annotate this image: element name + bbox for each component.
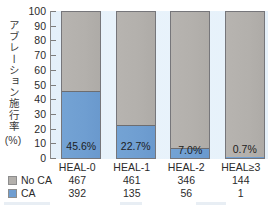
x-axis-tick-labels: HEAL-0HEAL-1HEAL-2HEAL≥3 xyxy=(50,161,268,175)
y-tick-label: 100 xyxy=(28,6,46,17)
y-tick-mark xyxy=(51,70,56,71)
legend-and-counts-table: No CA467461346144CA392135561 xyxy=(4,174,268,204)
y-tick-mark xyxy=(51,11,56,12)
bar-stack: 7.0% xyxy=(170,11,210,159)
x-tick-label-2: HEAL-1 xyxy=(105,161,160,173)
legend-label: CA xyxy=(21,187,36,200)
bar-value-label: 22.7% xyxy=(117,140,155,152)
y-tick-mark xyxy=(51,114,56,115)
y-tick-label: 0 xyxy=(40,153,46,164)
bar-stack: 22.7% xyxy=(116,11,156,159)
bar-segment-ca[interactable]: 7.0% xyxy=(171,148,209,158)
bar-stack: 45.6% xyxy=(61,11,101,159)
legend-row-no-ca[interactable]: No CA467461346144 xyxy=(4,174,268,187)
scan-edge-artifact xyxy=(0,202,270,206)
bar-value-label: 45.6% xyxy=(62,140,100,152)
y-tick-label: 50 xyxy=(34,79,46,90)
bar-segment-no-ca[interactable] xyxy=(62,12,100,91)
y-tick-mark xyxy=(51,40,56,41)
y-tick-mark xyxy=(51,143,56,144)
legend-swatch-gray xyxy=(8,176,17,185)
bar-heal-2[interactable]: 7.0% xyxy=(170,11,210,159)
y-tick-mark xyxy=(51,129,56,130)
count-value: 461 xyxy=(105,174,160,187)
y-tick-label: 20 xyxy=(34,123,46,134)
y-tick-label: 60 xyxy=(34,65,46,76)
y-tick-label: 80 xyxy=(34,35,46,46)
bar-segment-no-ca[interactable] xyxy=(117,12,155,125)
bar-stack: 0.7% xyxy=(225,11,265,159)
y-tick-label: 10 xyxy=(34,138,46,149)
count-value: 346 xyxy=(159,174,214,187)
x-tick-label-3: HEAL-2 xyxy=(159,161,214,173)
y-tick-label: 70 xyxy=(34,50,46,61)
bar-segment-no-ca[interactable] xyxy=(171,12,209,148)
x-tick-label-4: HEAL≥3 xyxy=(214,161,269,173)
y-tick-label: 40 xyxy=(34,94,46,105)
chart-container: アブレーション施行率 (%) 1009080706050403020100 45… xyxy=(0,0,270,206)
count-value: 467 xyxy=(50,174,105,187)
y-tick-label: 30 xyxy=(34,109,46,120)
y-tick-label: 90 xyxy=(34,20,46,31)
y-tick-mark xyxy=(51,158,56,159)
legend-row-ca[interactable]: CA392135561 xyxy=(4,187,268,200)
bar-heal-3[interactable]: 0.7% xyxy=(225,11,265,159)
y-axis-tick-labels: 1009080706050403020100 xyxy=(22,11,48,159)
bar-segment-ca[interactable] xyxy=(226,157,264,158)
count-value: 392 xyxy=(50,187,105,200)
count-value: 135 xyxy=(105,187,160,200)
y-tick-mark xyxy=(51,85,56,86)
plot-area: 45.6%22.7%7.0%0.7% xyxy=(50,11,268,159)
legend-swatch-blue xyxy=(8,189,17,198)
y-axis-title-text: アブレーション施行率 xyxy=(8,20,19,132)
bar-segment-ca[interactable]: 22.7% xyxy=(117,125,155,158)
x-tick-label-1: HEAL-0 xyxy=(50,161,105,173)
legend-label: No CA xyxy=(21,174,52,187)
count-value: 56 xyxy=(159,187,214,200)
y-axis-title: アブレーション施行率 (%) xyxy=(2,8,24,158)
y-tick-mark xyxy=(51,99,56,100)
bar-heal-1[interactable]: 22.7% xyxy=(116,11,156,159)
y-axis-unit-label: (%) xyxy=(5,134,21,146)
bar-segment-ca[interactable]: 45.6% xyxy=(62,91,100,158)
y-tick-mark xyxy=(51,26,56,27)
y-tick-mark xyxy=(51,55,56,56)
bar-heal-0[interactable]: 45.6% xyxy=(61,11,101,159)
bar-value-label: 0.7% xyxy=(226,143,264,155)
count-value: 1 xyxy=(214,187,269,200)
bar-segment-no-ca[interactable]: 0.7% xyxy=(226,12,264,157)
count-value: 144 xyxy=(214,174,269,187)
bar-value-label: 7.0% xyxy=(171,144,209,156)
